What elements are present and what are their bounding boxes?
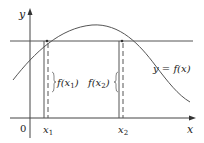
origin-label: 0 <box>20 123 26 134</box>
brace-2-icon <box>114 72 118 92</box>
graph-canvas: y x 0 x1 x2 f(x1) f(x2) y = f(x) <box>0 0 204 143</box>
f-x1-label: f(x1) <box>56 77 79 90</box>
y-axis-label: y <box>18 8 26 21</box>
intersection-point-1 <box>46 40 49 43</box>
x1-label: x1 <box>43 124 53 137</box>
x-axis-label: x <box>187 123 194 136</box>
f-x2-label: f(x2) <box>87 77 110 90</box>
brace-1-icon <box>52 72 56 92</box>
function-graph-diagram: y x 0 x1 x2 f(x1) f(x2) y = f(x) <box>0 0 204 143</box>
intersection-point-2 <box>121 40 124 43</box>
x2-label: x2 <box>118 124 128 137</box>
y-axis-arrow-icon <box>28 8 33 15</box>
curve-label: y = f(x) <box>152 63 191 74</box>
x-axis-arrow-icon <box>189 116 196 121</box>
